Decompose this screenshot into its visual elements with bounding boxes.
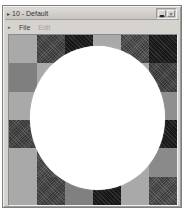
menu-item-edit: Edit	[38, 24, 50, 31]
checker-cell	[9, 35, 37, 63]
window-icon: ▸	[7, 11, 10, 17]
close-button[interactable]: ×	[167, 10, 175, 17]
white-circle-shape	[30, 46, 165, 190]
window-title: 10 - Default	[12, 10, 156, 17]
window-controls: ▃ ×	[156, 8, 177, 19]
menu-bar: ▸ File Edit	[5, 21, 179, 33]
checker-cell	[9, 63, 37, 91]
checker-cell	[149, 177, 177, 205]
checker-cell	[37, 177, 65, 205]
app-window: ▸ 10 - Default ▃ × ▸ File Edit	[2, 5, 182, 208]
menu-marker-icon: ▸	[8, 25, 11, 30]
drawing-canvas[interactable]	[8, 34, 178, 206]
title-bar[interactable]: ▸ 10 - Default ▃ ×	[5, 8, 179, 20]
checker-cell	[149, 35, 177, 63]
minimize-button[interactable]: ▃	[158, 10, 166, 17]
checker-cell	[9, 177, 37, 205]
checker-cell	[9, 148, 37, 176]
menu-item-file[interactable]: File	[19, 24, 30, 31]
